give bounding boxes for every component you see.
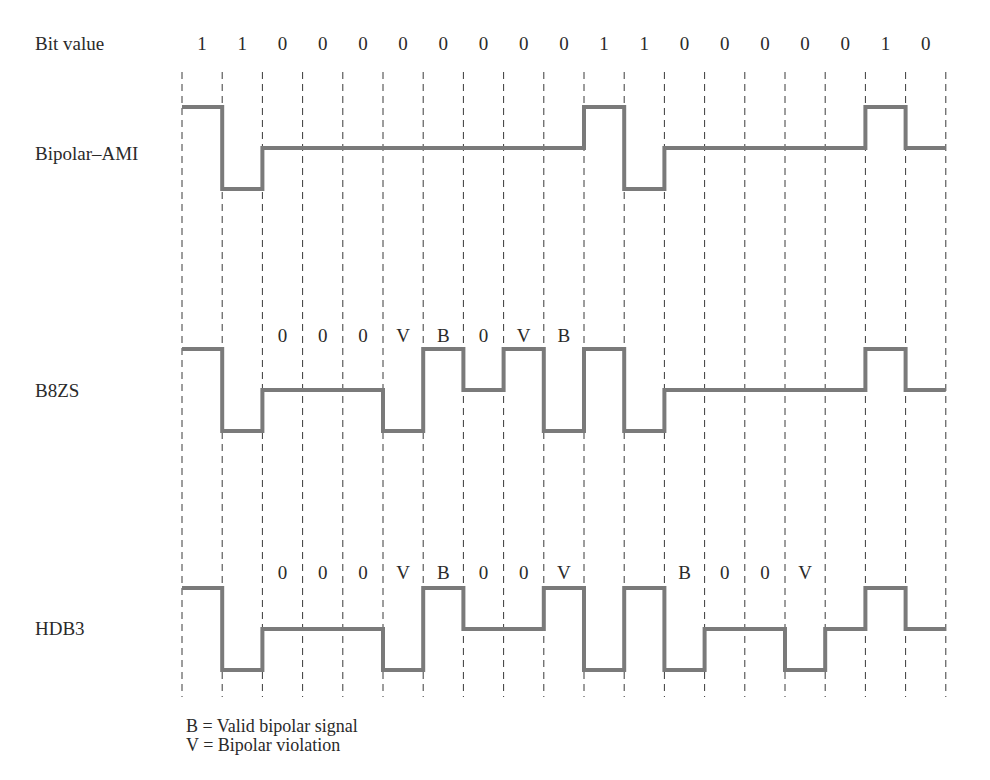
legend-b: B = Valid bipolar signal — [186, 717, 358, 736]
legend-v: V = Bipolar violation — [186, 736, 358, 755]
waveform-hdb3 — [182, 588, 946, 670]
legend: B = Valid bipolar signal V = Bipolar vio… — [186, 717, 358, 755]
waveform-plot — [0, 0, 990, 780]
waveform-b8zs — [182, 349, 946, 431]
waveform-ami — [182, 107, 946, 189]
